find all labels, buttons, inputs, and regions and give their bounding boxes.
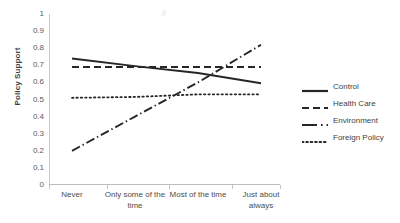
policy-support-line-chart: Policy Support 10.90.80.70.60.50.40.30.2… <box>0 0 400 223</box>
x-axis-tick-mark <box>49 185 50 189</box>
x-axis-tick-label: Only some of the time <box>104 190 166 211</box>
legend-label: Health Care <box>333 99 376 108</box>
y-axis-tick-label: 0 <box>22 181 44 189</box>
legend-label: Foreign Policy <box>333 133 384 142</box>
y-axis-tick-label: 0.7 <box>22 61 44 69</box>
y-axis-tick-label: 0.8 <box>22 44 44 52</box>
plot-area <box>49 14 280 185</box>
y-axis-tick-label: 0.5 <box>22 96 44 104</box>
legend-label: Control <box>333 82 359 91</box>
y-axis-tick-label: 0.9 <box>22 27 44 35</box>
series-lines <box>49 14 280 185</box>
legend-item-foreign-policy[interactable]: Foreign Policy <box>302 129 398 146</box>
legend-item-health-care[interactable]: Health Care <box>302 95 398 112</box>
y-axis-tick-label: 0.2 <box>22 147 44 155</box>
x-axis-tick-mark <box>107 185 108 189</box>
x-axis-tick-label: Never <box>41 190 103 201</box>
y-axis-title: Policy Support <box>13 32 22 122</box>
x-axis-tick-label: Most of the time <box>167 190 229 201</box>
y-axis-tick-label: 1 <box>22 10 44 18</box>
x-axis-tick-label: Just about always <box>230 190 292 211</box>
legend-swatch-icon <box>302 133 328 143</box>
legend-item-control[interactable]: Control <box>302 78 398 95</box>
legend-item-environment[interactable]: Environment <box>302 112 398 129</box>
x-axis-tick-mark <box>169 185 170 189</box>
chart-legend: ControlHealth CareEnvironmentForeign Pol… <box>302 78 398 146</box>
legend-swatch-icon <box>302 116 328 126</box>
x-axis-tick-labels: NeverOnly some of the timeMost of the ti… <box>49 190 309 220</box>
y-axis-tick-label: 0.4 <box>22 113 44 121</box>
series-line-foreign-policy <box>72 94 261 97</box>
legend-swatch-icon <box>302 82 328 92</box>
y-axis-tick-label: 0.3 <box>22 130 44 138</box>
legend-label: Environment <box>333 116 378 125</box>
x-axis-tick-mark <box>280 185 281 189</box>
x-axis-tick-mark <box>232 185 233 189</box>
y-axis-tick-labels: 10.90.80.70.60.50.40.30.20.10 <box>22 10 44 186</box>
y-axis-tick-label: 0.6 <box>22 78 44 86</box>
y-axis-tick-label: 0.1 <box>22 164 44 172</box>
legend-swatch-icon <box>302 99 328 109</box>
